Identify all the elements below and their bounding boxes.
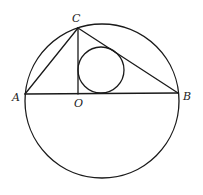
- label-a: A: [11, 91, 20, 104]
- segment-ac: [25, 28, 78, 94]
- label-o: O: [74, 97, 83, 110]
- geometry-figure: A B C O: [0, 0, 203, 195]
- label-b: B: [182, 90, 191, 103]
- segment-ab: [25, 93, 178, 94]
- segment-bc: [78, 28, 178, 93]
- label-c: C: [72, 12, 81, 25]
